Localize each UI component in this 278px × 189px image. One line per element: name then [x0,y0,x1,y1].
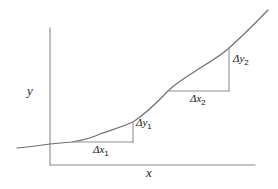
delta-x2-subscript: 2 [201,98,205,107]
delta-y1-label: Δy1 [136,117,152,131]
delta-y2-symbol: Δy [233,52,244,64]
delta-x1-subscript: 1 [104,149,108,158]
delta-x2-label: Δx2 [190,93,206,107]
delta-y2-subscript: 2 [244,58,248,67]
slope-triangles-diagram: y x Δx1 Δy1 Δx2 Δy2 [0,0,278,189]
delta-y2-label: Δy2 [233,53,249,67]
diagram-canvas [0,0,278,189]
delta-y1-symbol: Δy [136,116,147,128]
delta-x1-label: Δx1 [93,144,109,158]
delta-x1-symbol: Δx [93,143,104,155]
x-axis-label: x [146,166,152,179]
delta-x2-symbol: Δx [190,92,201,104]
y-axis-label: y [27,84,33,97]
delta-y1-subscript: 1 [147,122,151,131]
